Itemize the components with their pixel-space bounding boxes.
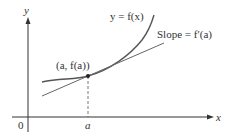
x-axis-arrow-icon — [207, 115, 214, 120]
tangent-line-diagram: y x 0 a y = f(x) Slope = f′(a) (a, f(a)) — [0, 0, 232, 139]
x-axis-label: x — [215, 111, 221, 123]
origin-label: 0 — [18, 119, 24, 131]
point-a — [86, 74, 90, 78]
y-axis-label: y — [23, 4, 29, 16]
a-label: a — [85, 119, 91, 131]
tangent-label: Slope = f′(a) — [157, 28, 212, 41]
point-label: (a, f(a)) — [56, 59, 90, 72]
curve-label: y = f(x) — [110, 10, 144, 23]
y-axis-arrow-icon — [26, 17, 31, 24]
